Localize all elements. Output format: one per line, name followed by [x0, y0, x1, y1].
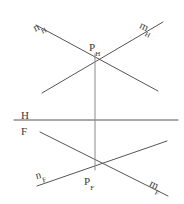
label-point-p-horizontal: PH: [89, 38, 100, 57]
line-n-frontal-projection: [37, 141, 167, 186]
label-point-p-frontal: PF: [84, 172, 94, 191]
geometry-figure: nH mH PH H F nF mF PF: [0, 0, 184, 204]
label-plane-h: H: [21, 106, 29, 122]
label-plane-f: F: [21, 122, 27, 138]
